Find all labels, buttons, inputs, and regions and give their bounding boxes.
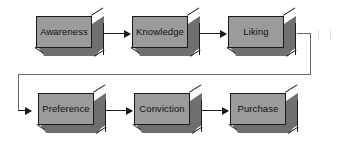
connector-liking-exit-segment [297,33,311,34]
scan-artifact-mark [318,30,319,40]
node-edge-top-right [189,84,206,100]
node-front-face: Preference [38,93,94,125]
node-conviction[interactable]: Conviction [134,93,202,133]
node-front-face: Awareness [36,16,92,48]
node-front-face: Liking [228,16,284,48]
node-edge-right [103,23,104,55]
node-edge-top-right [285,84,302,100]
node-liking[interactable]: Liking [228,16,296,56]
node-edge-right [105,100,106,132]
node-knowledge[interactable]: Knowledge [132,16,200,56]
node-front-face: Purchase [230,93,286,125]
connector-preference-entry-arrow [18,110,31,111]
node-front-face: Knowledge [132,16,188,48]
arrow-knowledge-to-liking [200,33,226,34]
node-label: Awareness [40,27,88,37]
node-edge-top-right [187,7,204,23]
node-edge-top-right [93,84,110,100]
node-edge-right [199,23,200,55]
node-edge-top-right [283,7,300,23]
node-preference[interactable]: Preference [38,93,106,133]
connector-bottom-horizontal-segment [18,74,311,75]
node-purchase[interactable]: Purchase [230,93,298,133]
connector-right-vertical-segment [310,33,311,75]
node-label: Purchase [238,104,279,114]
connector-left-vertical-segment [18,74,19,110]
node-front-face: Conviction [134,93,190,125]
arrow-conviction-to-purchase [202,110,228,111]
node-edge-right [295,23,296,55]
node-label: Preference [42,104,89,114]
arrow-awareness-to-knowledge [104,33,130,34]
scan-artifact-mark [330,30,331,40]
node-label: Knowledge [136,27,184,37]
node-label: Liking [243,27,268,37]
diagram-canvas: Awareness Knowledge Liking Preference [0,0,337,151]
arrow-preference-to-conviction [106,110,132,111]
node-edge-right [297,100,298,132]
node-edge-right [201,100,202,132]
node-label: Conviction [139,104,184,114]
node-edge-top-right [91,7,108,23]
node-awareness[interactable]: Awareness [36,16,104,56]
